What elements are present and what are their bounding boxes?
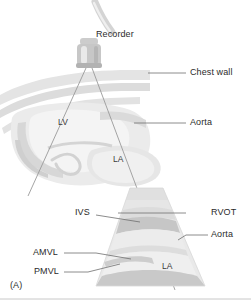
ultrasound-sector-image [96,188,205,286]
label-rvot: RVOT [211,208,236,217]
label-recorder: Recorder [96,30,134,39]
label-ivs: IVS [75,208,90,217]
label-pmvl: PMVL [34,267,59,276]
label-la-top: LA [113,155,124,164]
heart-anatomy [11,102,161,186]
label-la-bottom: LA [162,262,173,271]
label-aorta-top: Aorta [190,118,212,127]
label-lv: LV [58,118,68,127]
figure-illustration [0,0,251,304]
label-aorta-bottom: Aorta [211,230,233,239]
label-amvl: AMVL [33,248,58,257]
panel-letter: (A) [10,281,22,290]
label-chest-wall: Chest wall [190,68,233,77]
echocardiography-figure: Recorder Chest wall Aorta LV LA IVS RVOT… [0,0,251,304]
